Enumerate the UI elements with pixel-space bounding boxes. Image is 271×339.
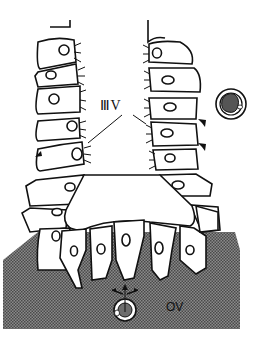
ov-cell-in-tissue: [112, 284, 138, 321]
ov-label: OV: [166, 300, 183, 314]
diagram-canvas: [0, 0, 271, 339]
isolated-cell-dark-nucleus: [216, 89, 246, 119]
ventricle-label: ⅢV: [100, 97, 121, 114]
label-pointers: [88, 115, 146, 143]
